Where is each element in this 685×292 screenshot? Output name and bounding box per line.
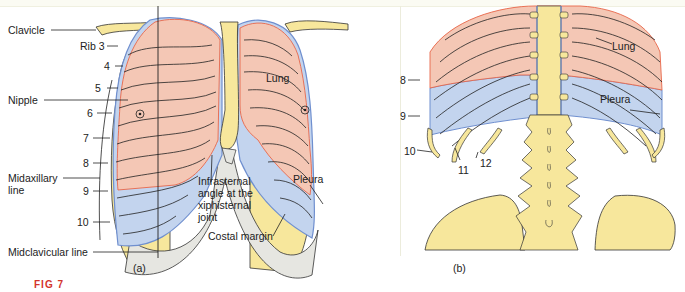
label-midaxillary-1: Midaxillary [8,172,58,184]
anterior-thorax-diagram: Clavicle Rib 3 4 5 Nipple 6 7 8 Midaxill… [0,0,685,292]
label-pleura-a: Pleura [293,173,324,185]
panel-b-figure: 8 9 10 11 12 Lung Pleura (b) [400,6,675,274]
label-midclavicular-line: Midclavicular line [8,246,88,258]
label-lung-a: Lung [266,72,290,84]
label-clavicle: Clavicle [8,24,45,36]
sternum [220,22,239,149]
midaxillary-line [99,80,112,240]
caption-b: (b) [453,262,466,274]
label-infrasternal-4: joint [197,211,217,223]
label-rib-10: 10 [77,216,89,228]
label-nipple: Nipple [8,94,38,106]
pelvis-left [425,195,525,250]
label-pleura-b: Pleura [600,93,631,105]
label-rib-8-b: 8 [400,74,406,86]
clavicle-right [285,21,348,32]
label-lung-b: Lung [612,40,636,52]
spine-lumbar [516,115,582,250]
label-rib-3: Rib 3 [80,40,105,52]
label-rib-9-b: 9 [400,110,406,122]
rib-12-right [606,128,628,154]
label-rib-4: 4 [104,60,110,72]
panel-a-figure: Clavicle Rib 3 4 5 Nipple 6 7 8 Midaxill… [8,6,348,278]
label-rib-7: 7 [83,132,89,144]
label-infrasternal-3: xiphisternal [198,199,251,211]
label-infrasternal-2: angle at the [198,187,253,199]
rib-12-left [480,128,502,154]
label-rib-11-b: 11 [458,164,469,176]
label-rib-12-b: 12 [480,157,492,169]
label-rib-9: 9 [83,185,89,197]
figure-label: FIG 7 [34,279,64,290]
label-rib-6: 6 [87,107,93,119]
label-infrasternal-1: Infrasternal [198,175,251,187]
label-midaxillary-2: line [8,184,25,196]
label-rib-5: 5 [95,82,101,94]
rib-11-left [452,128,472,162]
spine-thoracic [537,6,561,115]
pelvis-right [595,195,675,250]
caption-a: (a) [133,262,146,274]
label-rib-8: 8 [83,157,89,169]
label-costal-margin: Costal margin [208,230,273,242]
label-rib-10-b: 10 [404,145,416,157]
